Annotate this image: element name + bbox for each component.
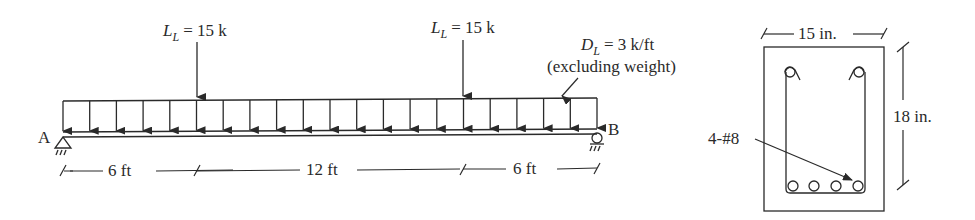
section-height-label: 18 in.	[893, 107, 932, 126]
dimension-2: 12 ft	[306, 160, 338, 179]
point-load-2: LL= 15 k	[430, 18, 495, 96]
point-load-1: LL= 15 k	[162, 21, 227, 97]
svg-text:DL= 3 k/ft: DL= 3 k/ft	[580, 35, 654, 58]
svg-text:LL= 15 k: LL= 15 k	[162, 21, 227, 44]
roller-support-b	[590, 133, 604, 151]
rebar-leader	[755, 139, 852, 180]
rebar-label: 4-#8	[708, 129, 739, 148]
beam-diagram: A B LL= 15 k LL= 15 k DL= 3 k/ft (exclud…	[0, 0, 975, 220]
distributed-load-label: DL= 3 k/ft (excluding weight)	[0, 0, 676, 96]
svg-text:LL= 15 k: LL= 15 k	[430, 18, 495, 41]
distributed-load-note: (excluding weight)	[547, 57, 676, 76]
dimension-3: 6 ft	[513, 159, 536, 178]
support-a-label: A	[38, 128, 51, 147]
support-b-label: B	[608, 120, 619, 139]
load-symbol: L	[162, 21, 172, 40]
pin-support-a	[55, 137, 71, 155]
dimension-1: 6 ft	[108, 161, 131, 180]
cross-section	[764, 47, 884, 211]
section-width-label: 15 in.	[798, 24, 837, 43]
distributed-load	[63, 98, 597, 131]
